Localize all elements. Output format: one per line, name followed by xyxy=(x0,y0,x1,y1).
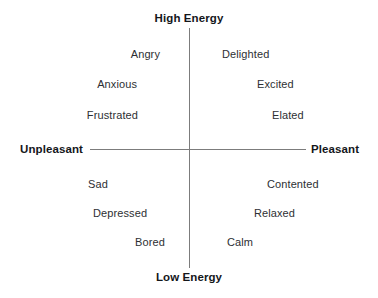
emotion-elated: Elated xyxy=(272,109,304,121)
emotion-calm: Calm xyxy=(227,236,253,248)
vertical-axis-line xyxy=(189,28,190,268)
emotion-depressed: Depressed xyxy=(93,207,147,219)
axis-label-high-energy: High Energy xyxy=(0,12,378,24)
emotion-anxious: Anxious xyxy=(37,78,137,90)
emotion-relaxed: Relaxed xyxy=(254,207,295,219)
emotion-excited: Excited xyxy=(257,78,294,90)
emotion-delighted: Delighted xyxy=(222,48,269,60)
axis-label-unpleasant: Unpleasant xyxy=(20,143,83,155)
emotion-quadrant-chart: High Energy Low Energy Unpleasant Pleasa… xyxy=(0,0,378,298)
emotion-contented: Contented xyxy=(267,178,319,190)
axis-label-pleasant: Pleasant xyxy=(311,143,359,155)
emotion-sad: Sad xyxy=(88,178,108,190)
axis-label-low-energy: Low Energy xyxy=(0,271,378,283)
emotion-angry: Angry xyxy=(60,48,160,60)
emotion-frustrated: Frustrated xyxy=(26,109,138,121)
emotion-bored: Bored xyxy=(135,236,165,248)
horizontal-axis-line xyxy=(90,149,306,150)
